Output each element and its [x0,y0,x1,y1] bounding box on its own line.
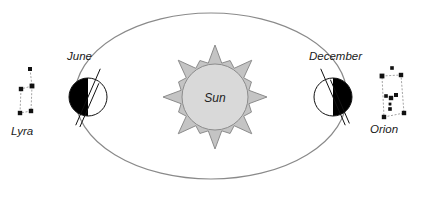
earth-night-side-june [69,78,88,116]
constellation-link-lyra [31,86,32,111]
earth-night-side-december [333,78,352,116]
star-orion-2 [399,73,403,77]
star-orion-7 [388,107,392,111]
star-lyra-2 [19,87,23,91]
sun-group: Sun [163,45,267,149]
star-orion-6 [389,103,392,106]
diagram-canvas: Sun JuneDecember LyraOrion [0,0,422,197]
star-lyra-4 [18,111,22,115]
star-lyra-0 [28,67,32,71]
star-orion-4 [389,96,393,100]
earth-label-december: December [309,50,363,62]
sun-label: Sun [204,91,226,105]
star-lyra-3 [29,109,33,113]
star-orion-3 [384,94,388,98]
constellation-label-lyra: Lyra [11,125,33,137]
star-orion-5 [394,93,398,97]
constellation-label-orion: Orion [370,123,398,135]
constellation-link-lyra [30,69,32,86]
earth-label-june: June [66,50,92,62]
star-orion-8 [382,115,386,119]
star-orion-0 [390,66,394,70]
star-orion-1 [380,74,385,79]
earth-june: June [66,50,107,127]
orbit-diagram: Sun JuneDecember LyraOrion [0,0,422,197]
star-orion-9 [402,111,406,115]
star-lyra-1 [30,84,35,89]
constellation-orion: Orion [370,66,406,135]
earth-december: December [309,50,363,125]
constellation-lyra: Lyra [11,67,34,137]
constellation-link-lyra [20,89,21,113]
